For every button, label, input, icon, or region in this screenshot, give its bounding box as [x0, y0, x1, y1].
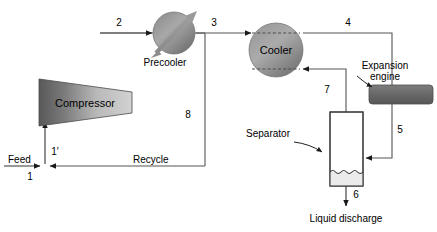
expansion-engine-body	[369, 85, 433, 104]
stream-number-5: 5	[397, 124, 403, 135]
equipment-expansion-engine	[369, 85, 433, 104]
stream-number-8: 8	[185, 109, 191, 120]
equipment-precooler	[151, 11, 197, 58]
stream-number-2: 2	[116, 17, 122, 28]
recycle-label: Recycle	[133, 154, 169, 165]
separator-label: Separator	[246, 128, 291, 139]
expansion-engine-label-line2: engine	[370, 71, 400, 82]
cooler-inner-label: Cooler	[260, 44, 293, 56]
separator-leader	[294, 142, 322, 152]
stream-number-6: 6	[353, 189, 359, 200]
stream-number-4: 4	[345, 17, 351, 28]
equipment-compressor: Compressor	[39, 79, 132, 126]
stream-number-1: 1	[27, 171, 33, 182]
stream-number-1-prime: 1′	[51, 146, 59, 157]
stream-number-7: 7	[324, 84, 330, 95]
liquid-discharge-label: Liquid discharge	[310, 213, 383, 224]
process-flow-diagram: Compressor Cooler	[0, 0, 437, 232]
separator-liquid-fill	[330, 172, 363, 186]
expansion-engine-label-line1: Expansion	[362, 60, 409, 71]
pfd-canvas: Compressor Cooler	[0, 0, 437, 232]
feed-label: Feed	[8, 154, 31, 165]
equipment-cooler: Cooler	[249, 23, 303, 77]
precooler-label: Precooler	[144, 57, 187, 68]
stream-number-3: 3	[211, 17, 217, 28]
stream-5-line	[366, 103, 392, 158]
equipment-separator	[330, 112, 363, 186]
compressor-inner-label: Compressor	[55, 97, 115, 109]
